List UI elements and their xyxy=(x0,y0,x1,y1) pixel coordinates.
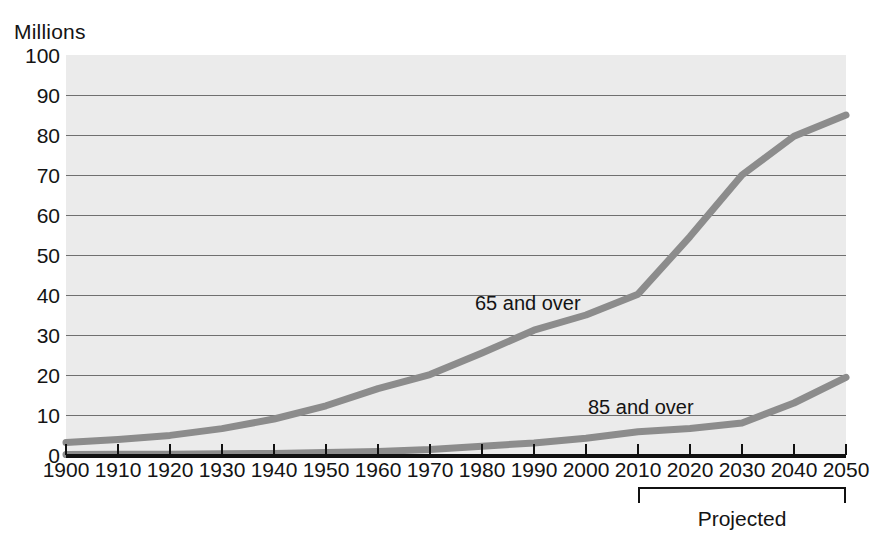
y-axis-tick-70: 70 xyxy=(8,165,60,186)
projected-bracket xyxy=(638,487,846,503)
x-axis-tick-2050: 2050 xyxy=(823,459,870,480)
y-axis-tick-20: 20 xyxy=(8,365,60,386)
x-axis-tick-1930: 1930 xyxy=(199,459,246,480)
x-axis-tick-1960: 1960 xyxy=(355,459,402,480)
x-axis-tick-1940: 1940 xyxy=(251,459,298,480)
bracket-leg-right xyxy=(844,487,846,503)
x-axis-tick-1980: 1980 xyxy=(459,459,506,480)
line-series-65-and-over xyxy=(66,115,846,443)
x-axis-tick-2030: 2030 xyxy=(719,459,766,480)
y-axis-tick-40: 40 xyxy=(8,285,60,306)
y-axis-tick-80: 80 xyxy=(8,125,60,146)
x-axis-tick-2000: 2000 xyxy=(563,459,610,480)
series-label-65-and-over: 65 and over xyxy=(475,293,581,313)
y-axis-tick-10: 10 xyxy=(8,405,60,426)
bracket-bar xyxy=(638,487,846,489)
x-axis-tick-1910: 1910 xyxy=(95,459,142,480)
y-axis-tick-60: 60 xyxy=(8,205,60,226)
x-axis-tick-1920: 1920 xyxy=(147,459,194,480)
population-age-chart: Millions 1009080706050403020100 19001910… xyxy=(0,0,888,549)
x-axis-tick-2010: 2010 xyxy=(615,459,662,480)
series-label-85-and-over: 85 and over xyxy=(588,397,694,417)
line-series-85-and-over xyxy=(66,377,846,454)
y-axis-tick-90: 90 xyxy=(8,85,60,106)
x-axis-tick-1990: 1990 xyxy=(511,459,558,480)
x-axis-tick-2040: 2040 xyxy=(771,459,818,480)
series-layer xyxy=(66,55,846,455)
x-axis-line xyxy=(66,454,846,458)
plot-area xyxy=(66,55,846,455)
y-axis-tick-100: 100 xyxy=(8,45,60,66)
y-axis-tick-30: 30 xyxy=(8,325,60,346)
x-axis-tick-1900: 1900 xyxy=(43,459,90,480)
y-axis-tick-50: 50 xyxy=(8,245,60,266)
x-axis-tick-1950: 1950 xyxy=(303,459,350,480)
bracket-leg-left xyxy=(638,487,640,503)
x-axis-tick-1970: 1970 xyxy=(407,459,454,480)
projected-label: Projected xyxy=(698,508,787,529)
x-axis-tick-2020: 2020 xyxy=(667,459,714,480)
